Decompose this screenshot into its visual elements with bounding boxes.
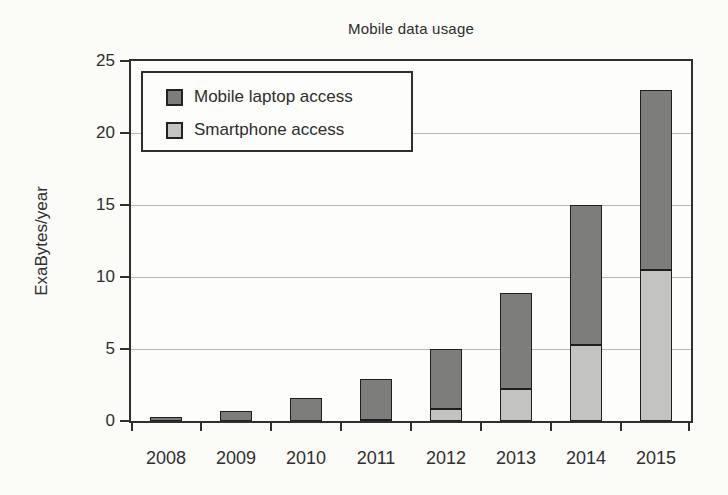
bar-2010-mobile-laptop-access	[290, 398, 322, 421]
legend-swatch-mobile-laptop-access	[166, 89, 183, 106]
x-tick-label-2009: 2009	[201, 447, 271, 469]
y-tick-5	[120, 348, 129, 350]
y-tick-label-20: 20	[73, 123, 115, 143]
y-axis-title: ExaBytes/year	[32, 186, 52, 296]
gridline-5	[131, 349, 691, 350]
y-tick-15	[120, 204, 129, 206]
legend-label-mobile-laptop-access: Mobile laptop access	[194, 87, 353, 107]
x-tick-label-2010: 2010	[271, 447, 341, 469]
x-tick-label-2008: 2008	[131, 447, 201, 469]
y-tick-0	[120, 420, 129, 422]
legend-item-smartphone-access: Smartphone access	[166, 117, 411, 143]
gridline-15	[131, 205, 691, 206]
x-tick-8	[688, 423, 690, 431]
y-tick-label-10: 10	[73, 267, 115, 287]
y-tick-10	[120, 276, 129, 278]
bar-2014-smartphone-access	[570, 345, 602, 421]
y-tick-20	[120, 132, 129, 134]
x-tick-7	[620, 423, 622, 431]
bar-2012-smartphone-access	[430, 409, 462, 421]
bar-2014-mobile-laptop-access	[570, 205, 602, 345]
bar-2015-mobile-laptop-access	[640, 90, 672, 270]
x-tick-label-2014: 2014	[551, 447, 621, 469]
legend-label-smartphone-access: Smartphone access	[194, 120, 344, 140]
x-tick-1	[200, 423, 202, 431]
bar-2012-mobile-laptop-access	[430, 349, 462, 409]
legend-swatch-smartphone-access	[166, 122, 183, 139]
x-tick-2	[270, 423, 272, 431]
bar-2013-mobile-laptop-access	[500, 293, 532, 389]
y-tick-label-5: 5	[73, 339, 115, 359]
bar-2015-smartphone-access	[640, 270, 672, 421]
y-tick-label-25: 25	[73, 51, 115, 71]
gridline-10	[131, 277, 691, 278]
legend-item-mobile-laptop-access: Mobile laptop access	[166, 84, 411, 110]
y-tick-25	[120, 60, 129, 62]
bar-2008-mobile-laptop-access	[150, 417, 182, 421]
chart-title: Mobile data usage	[129, 20, 693, 37]
x-tick-label-2015: 2015	[621, 447, 691, 469]
x-tick-0	[131, 423, 133, 431]
x-tick-3	[340, 423, 342, 431]
x-tick-5	[480, 423, 482, 431]
y-tick-label-15: 15	[73, 195, 115, 215]
x-tick-label-2013: 2013	[481, 447, 551, 469]
x-tick-label-2011: 2011	[341, 447, 411, 469]
chart-figure: Mobile data usage ExaBytes/year 05101520…	[0, 0, 728, 495]
bar-2013-smartphone-access	[500, 389, 532, 421]
bar-2011-mobile-laptop-access	[360, 379, 392, 419]
x-tick-4	[410, 423, 412, 431]
y-tick-label-0: 0	[73, 411, 115, 431]
x-tick-6	[550, 423, 552, 431]
legend: Mobile laptop access Smartphone access	[141, 71, 413, 152]
bar-2009-mobile-laptop-access	[220, 411, 252, 421]
x-tick-label-2012: 2012	[411, 447, 481, 469]
